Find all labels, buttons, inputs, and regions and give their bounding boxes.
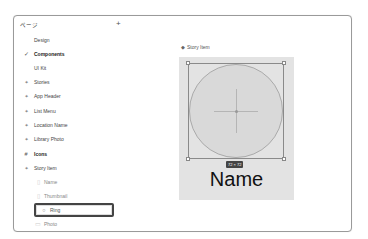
component-diamond-icon: ◆ [181, 44, 185, 50]
layer-item-ring[interactable]: ○ Ring [34, 203, 114, 217]
resize-handle-bottom-left[interactable] [186, 157, 190, 161]
page-label: Design [34, 34, 50, 46]
page-item-list-menu[interactable]: ⌖ List Menu [14, 105, 164, 117]
page-item-ui-kit[interactable]: UI Kit [14, 62, 164, 74]
page-label: Stories [34, 76, 50, 88]
frame-label[interactable]: ◆Story Item [181, 44, 210, 50]
page-label: UI Kit [34, 62, 46, 74]
page-label: App Header [34, 90, 61, 102]
group-layer-icon: ▯ [34, 190, 42, 202]
name-text-layer[interactable]: Name [179, 167, 294, 191]
frame-grid-icon: # [22, 148, 30, 160]
checkmark-icon: ✓ [22, 48, 30, 60]
component-icon: ⌖ [22, 90, 30, 102]
page-label: Icons [34, 148, 47, 160]
component-icon: ⌖ [22, 76, 30, 88]
component-icon: ⌖ [22, 162, 30, 174]
ring-selection-box[interactable] [188, 63, 284, 159]
page-item-icons[interactable]: # Icons [14, 148, 164, 160]
resize-handle-bottom-right[interactable] [282, 157, 286, 161]
layer-label: Photo [44, 218, 57, 230]
page-item-story-item[interactable]: ⌖ Story Item [14, 162, 164, 174]
layer-item-photo[interactable]: ▭ Photo [14, 218, 164, 230]
page-item-components[interactable]: ✓ Components [14, 48, 164, 60]
layer-label: Name [44, 176, 57, 188]
story-item-frame[interactable]: 72 × 72 Name [179, 57, 294, 200]
page-item-design[interactable]: Design [14, 34, 164, 46]
image-layer-icon: ▭ [34, 218, 42, 230]
page-label: Story Item [34, 162, 57, 174]
text-layer-icon: ▯ [34, 176, 42, 188]
component-icon: ⌖ [22, 119, 30, 131]
layer-label: Ring [50, 205, 60, 215]
component-icon: ⌖ [22, 133, 30, 145]
resize-handle-top-left[interactable] [186, 61, 190, 65]
page-label: List Menu [34, 105, 56, 117]
component-icon: ⌖ [22, 105, 30, 117]
resize-handle-top-right[interactable] [282, 61, 286, 65]
layer-label: Thumbnail [44, 190, 67, 202]
page-item-location-name[interactable]: ⌖ Location Name [14, 119, 164, 131]
pages-title: ページ [20, 21, 38, 29]
figma-pages-window: ページ + Design ✓ Components UI Kit ⌖ Stori… [13, 15, 352, 232]
pages-header: ページ + [20, 20, 170, 32]
layer-item-thumbnail[interactable]: ▯ Thumbnail [14, 190, 164, 202]
ellipse-icon: ○ [40, 205, 48, 215]
page-item-app-header[interactable]: ⌖ App Header [14, 90, 164, 102]
page-label: Components [34, 48, 65, 60]
page-item-library-photo[interactable]: ⌖ Library Photo [14, 133, 164, 145]
page-item-stories[interactable]: ⌖ Stories [14, 76, 164, 88]
frame-label-text: Story Item [187, 44, 210, 50]
add-page-icon[interactable]: + [116, 19, 121, 29]
page-label: Library Photo [34, 133, 64, 145]
center-point [235, 110, 238, 113]
layer-item-name[interactable]: ▯ Name [14, 176, 164, 188]
page-label: Location Name [34, 119, 68, 131]
